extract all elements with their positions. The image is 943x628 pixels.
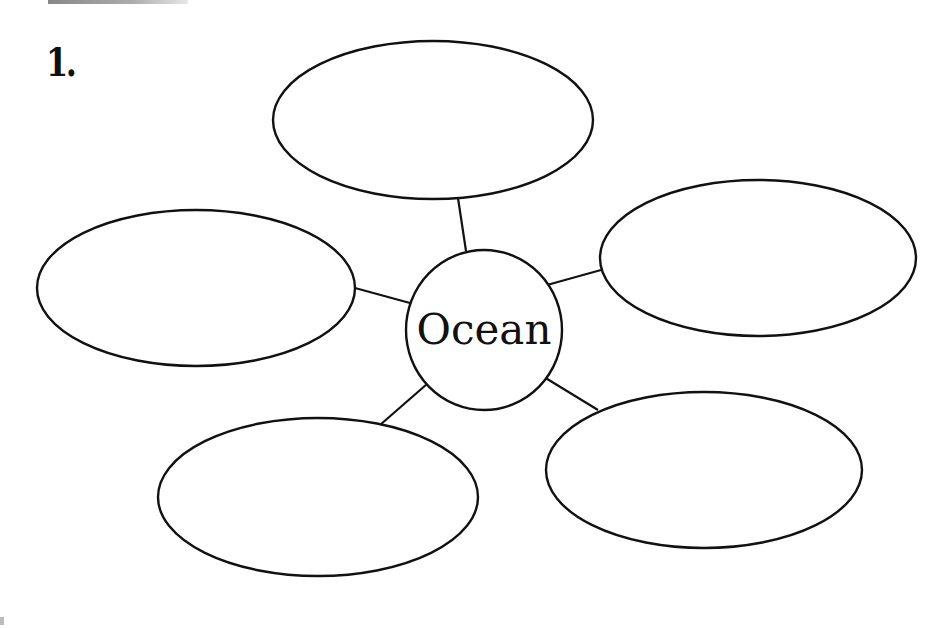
connector-left [355, 288, 410, 303]
bubble-bottom-right-text[interactable] [556, 402, 852, 538]
bubble-right-text[interactable] [610, 190, 906, 326]
worksheet-page: 1. Ocean [0, 0, 943, 628]
connector-bottom-left [380, 384, 427, 425]
bubble-bottom-left-text[interactable] [168, 428, 468, 566]
scan-artifact [0, 617, 4, 625]
center-label: Ocean [405, 300, 563, 360]
bubble-top-text[interactable] [283, 50, 583, 190]
bubble-left-text[interactable] [47, 220, 345, 356]
connector-right [547, 270, 601, 285]
connector-top [458, 198, 466, 251]
